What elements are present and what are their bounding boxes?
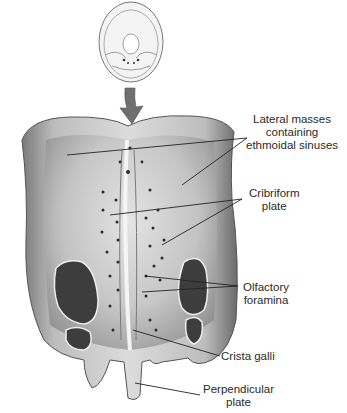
label-line: foramina — [243, 294, 289, 307]
label-line: containing — [246, 126, 338, 139]
ethmoid-bone-figure: Lateral masses containing ethmoidal sinu… — [0, 0, 347, 413]
label-crista-galli: Crista galli — [221, 350, 275, 363]
ethmoid-bone — [22, 116, 237, 400]
label-lateral-masses: Lateral masses containing ethmoidal sinu… — [246, 113, 338, 152]
label-cribriform-plate: Cribriform plate — [249, 187, 299, 213]
arrow-down-icon — [120, 88, 143, 124]
label-line: Perpendicular — [203, 383, 274, 396]
label-perpendicular-plate: Perpendicular plate — [203, 383, 274, 409]
label-line: Lateral masses — [246, 113, 338, 126]
label-line: ethmoidal sinuses — [246, 139, 338, 152]
skull-superior-view-icon — [99, 2, 163, 82]
label-line: Olfactory — [243, 281, 289, 294]
label-line: plate — [203, 396, 274, 409]
label-line: Cribriform — [249, 187, 299, 200]
label-line: plate — [249, 200, 299, 213]
label-olfactory-foramina: Olfactory foramina — [243, 281, 289, 307]
label-line: Crista galli — [221, 350, 275, 363]
